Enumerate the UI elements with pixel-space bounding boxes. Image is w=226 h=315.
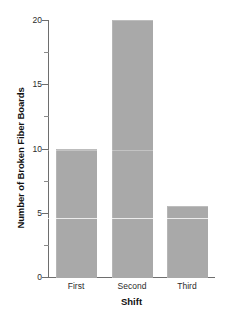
y-tick-label: 15: [16, 80, 42, 89]
bar-chart-figure: Number of Broken Fiber Boards 05101520 F…: [0, 0, 226, 315]
x-tick-label: First: [47, 281, 105, 291]
y-tick-minor: [44, 245, 49, 246]
x-axis-title: Shift: [48, 296, 215, 307]
bar: [167, 206, 208, 278]
y-tick-major: [42, 277, 49, 278]
bar: [112, 20, 153, 278]
y-tick-minor: [44, 181, 49, 182]
bar: [56, 149, 97, 278]
y-tick-major: [42, 149, 49, 150]
y-tick-label: 10: [16, 145, 42, 154]
y-tick-major: [42, 84, 49, 85]
y-tick-label: 20: [16, 16, 42, 25]
y-tick-label: 5: [16, 209, 42, 218]
x-tick-label: Third: [158, 281, 216, 291]
x-tick-label: Second: [103, 281, 161, 291]
y-tick-major: [42, 213, 49, 214]
y-tick-minor: [44, 116, 49, 117]
y-tick-label: 0: [16, 273, 42, 282]
y-tick-minor: [44, 52, 49, 53]
y-tick-major: [42, 20, 49, 21]
